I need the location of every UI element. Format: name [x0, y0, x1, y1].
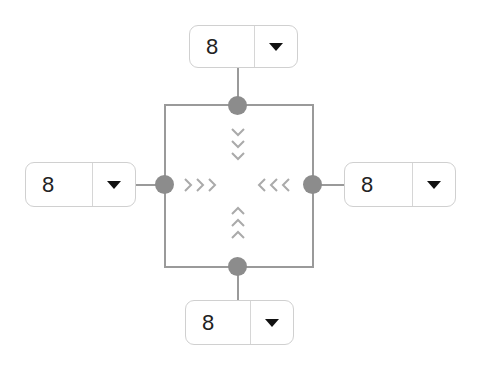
dropdown-top-toggle[interactable]: [254, 26, 297, 67]
caret-down-icon: [265, 319, 279, 327]
dropdown-bottom-value: 8: [186, 301, 250, 344]
dropdown-top[interactable]: 8: [189, 25, 298, 68]
dropdown-left-value: 8: [26, 163, 92, 206]
dropdown-bottom[interactable]: 8: [185, 300, 294, 345]
chevrons-left-icon: [256, 176, 296, 194]
dropdown-right[interactable]: 8: [344, 162, 456, 207]
dropdown-left-toggle[interactable]: [92, 163, 135, 206]
chevrons-right-icon: [182, 176, 222, 194]
caret-down-icon: [269, 43, 283, 51]
caret-down-icon: [427, 181, 441, 189]
caret-down-icon: [107, 181, 121, 189]
dropdown-left[interactable]: 8: [25, 162, 136, 207]
node-left[interactable]: [155, 175, 174, 194]
dropdown-top-value: 8: [190, 26, 254, 67]
chevrons-down-icon: [229, 126, 247, 166]
dropdown-right-value: 8: [345, 163, 412, 206]
dropdown-bottom-toggle[interactable]: [250, 301, 293, 344]
node-bottom[interactable]: [228, 257, 247, 276]
node-top[interactable]: [228, 96, 247, 115]
dropdown-right-toggle[interactable]: [412, 163, 455, 206]
chevrons-up-icon: [229, 205, 247, 245]
node-right[interactable]: [303, 175, 322, 194]
